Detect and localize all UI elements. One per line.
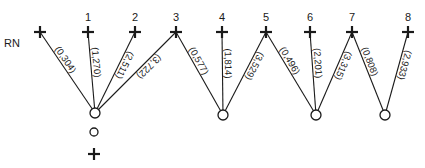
edge-line [176,32,223,115]
station-label: 6 [307,11,313,23]
edge-labels-layer: (0,304)(1,270)(2,511)(3,722)(0,577)(1,81… [53,44,415,82]
station-label: 7 [349,11,355,23]
edge-label: (2,511) [114,50,137,81]
stations-layer: 12345678 [34,11,414,38]
setup-circle-icon [90,108,100,118]
legend-cross-icon [88,148,100,160]
reference-label: RN [4,37,20,49]
station-label: 1 [85,11,91,23]
station-label: 5 [263,11,269,23]
station-cross-icon [216,26,228,38]
station-cross-icon [34,26,46,38]
edge-label: (3,722) [135,52,164,81]
station-label: 4 [219,11,225,23]
edge-line [40,32,95,113]
legend-circle-icon [90,128,98,136]
setups-layer [90,108,390,120]
station-cross-icon [346,26,358,38]
station-cross-icon [129,26,141,38]
setup-circle-icon [380,110,390,120]
diagram-canvas: (0,304)(1,270)(2,511)(3,722)(0,577)(1,81… [0,0,425,168]
station-label: 8 [405,11,411,23]
edge-label: (0,577) [187,45,211,77]
station-cross-icon [402,26,414,38]
edge-label: (3,529) [243,50,267,82]
station-cross-icon [304,26,316,38]
station-cross-icon [82,26,94,38]
edge-line [95,32,176,113]
legend [88,128,100,160]
station-label: 2 [132,11,138,23]
setup-circle-icon [218,110,228,120]
level-network-diagram: (0,304)(1,270)(2,511)(3,722)(0,577)(1,81… [0,0,425,168]
station-label: 3 [173,11,179,23]
edge-label: (1,814) [223,48,234,78]
station-cross-icon [260,26,272,38]
setup-circle-icon [311,110,321,120]
edge-label: (3,315) [333,50,355,82]
edge-label: (0,808) [359,45,380,77]
edge-label: (2,201) [312,48,325,79]
edge-line [222,32,223,115]
edge-line [266,32,316,115]
